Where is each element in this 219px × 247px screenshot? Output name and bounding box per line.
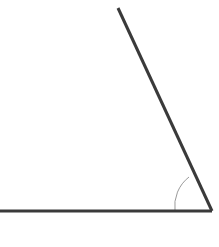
angle-diagram-svg bbox=[0, 0, 219, 247]
angle-figure-canvas bbox=[0, 0, 219, 247]
